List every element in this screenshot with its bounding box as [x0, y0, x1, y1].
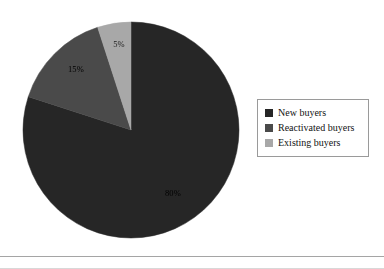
pie-chart-plot-area: 80%15%5% — [21, 20, 241, 240]
legend-item-existing-buyers[interactable]: Existing buyers — [265, 136, 362, 150]
pie-chart-svg: 80%15%5% — [21, 20, 241, 240]
legend-label-new-buyers: New buyers — [278, 107, 326, 119]
legend-swatch-icon-existing-buyers — [265, 139, 273, 147]
legend-item-reactivated-buyers[interactable]: Reactivated buyers — [265, 121, 362, 135]
legend-item-new-buyers[interactable]: New buyers — [265, 106, 362, 120]
pie-slice-value-label-2: 15% — [68, 64, 84, 74]
legend-label-existing-buyers: Existing buyers — [278, 137, 341, 149]
legend-label-reactivated-buyers: Reactivated buyers — [278, 122, 354, 134]
pie-slice-group — [23, 22, 239, 238]
pie-chart-figure: 80%15%5% New buyers Reactivated buyers E… — [0, 0, 384, 269]
legend-swatch-icon-new-buyers — [265, 109, 273, 117]
chart-legend: New buyers Reactivated buyers Existing b… — [257, 99, 369, 157]
pie-slice-value-label-3: 5% — [113, 39, 125, 49]
footer-divider-rule — [0, 256, 384, 257]
legend-swatch-icon-reactivated-buyers — [265, 124, 273, 132]
pie-slice-value-label-1: 80% — [165, 188, 181, 198]
